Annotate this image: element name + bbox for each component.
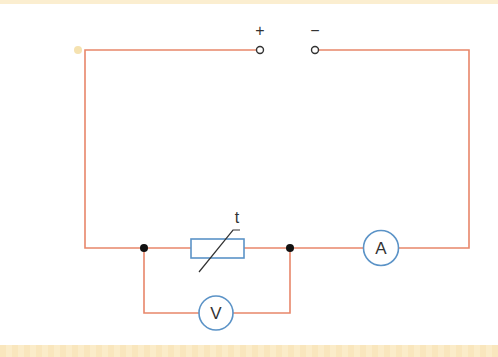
positive-terminal-icon — [257, 47, 264, 54]
positive-label: + — [255, 22, 264, 39]
decorative-dot — [74, 46, 82, 54]
wires — [85, 50, 469, 313]
ammeter-label: A — [375, 239, 387, 258]
voltmeter: V — [199, 296, 233, 330]
negative-label: − — [310, 22, 319, 39]
junction-left-icon — [140, 244, 148, 252]
voltmeter-label: V — [210, 304, 222, 323]
wire-right — [319, 50, 469, 248]
thermistor-label: t — [235, 209, 240, 226]
junction-right-icon — [286, 244, 294, 252]
wire-left — [85, 50, 256, 248]
ammeter: A — [364, 231, 399, 266]
thermistor: t — [191, 209, 244, 272]
circuit-diagram: + − t A V — [0, 0, 498, 357]
negative-terminal-icon — [312, 47, 319, 54]
power-terminals: + − — [255, 22, 319, 54]
